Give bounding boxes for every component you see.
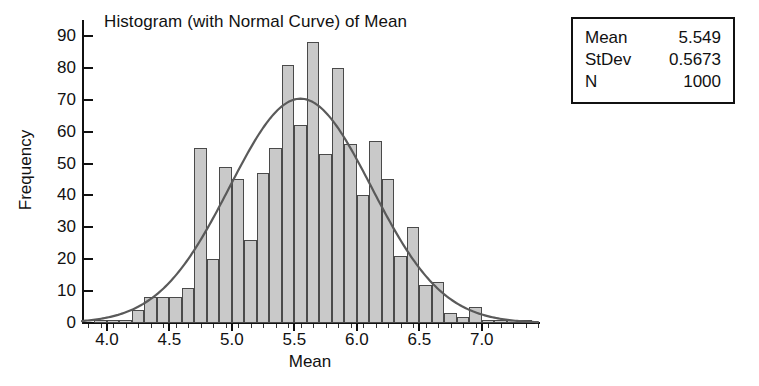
stats-key: N (585, 71, 597, 93)
x-axis-minor-tick (413, 324, 414, 328)
x-axis-minor-tick (176, 324, 177, 328)
normal-curve-path (82, 99, 538, 322)
y-axis-tick-label: 50 (42, 155, 76, 172)
x-axis-minor-tick (363, 324, 364, 328)
x-axis-minor-tick (338, 324, 339, 328)
x-axis-minor-tick (376, 324, 377, 328)
y-axis-tick-label: 10 (42, 282, 76, 299)
x-axis-minor-tick (488, 324, 489, 328)
x-axis-minor-tick (276, 324, 277, 328)
x-axis-minor-tick (213, 324, 214, 328)
normal-curve-overlay (82, 20, 538, 323)
stats-value: 0.5673 (669, 49, 721, 71)
y-axis-tick-label: 60 (42, 123, 76, 140)
x-axis-minor-tick (101, 324, 102, 328)
x-axis-minor-tick (163, 324, 164, 328)
x-axis-minor-tick (401, 324, 402, 328)
x-axis-minor-tick (301, 324, 302, 328)
x-axis-minor-tick (201, 324, 202, 328)
x-axis-minor-tick (438, 324, 439, 328)
x-axis-tick-label: 5.0 (208, 330, 256, 350)
y-axis-tick-label: 90 (42, 27, 76, 44)
x-axis-minor-tick (113, 324, 114, 328)
x-axis-minor-tick (263, 324, 264, 328)
x-axis-tick-label: 6.0 (333, 330, 381, 350)
y-axis-tick-label: 30 (42, 218, 76, 235)
x-axis-tick-label: 6.5 (395, 330, 443, 350)
x-axis-minor-tick (513, 324, 514, 328)
x-axis-minor-tick (126, 324, 127, 328)
x-axis-minor-tick (88, 324, 89, 328)
x-axis-tick-label: 4.0 (83, 330, 131, 350)
x-axis-minor-tick (226, 324, 227, 328)
x-axis-minor-tick (288, 324, 289, 328)
stats-row: StDev 0.5673 (585, 49, 721, 71)
x-axis-tick-label: 5.5 (270, 330, 318, 350)
stats-key: Mean (585, 27, 628, 49)
stats-row: N 1000 (585, 71, 721, 93)
x-axis-minor-tick (151, 324, 152, 328)
y-axis-tick-label: 0 (42, 314, 76, 331)
x-axis-tick-label: 7.0 (458, 330, 506, 350)
x-axis-minor-tick (463, 324, 464, 328)
y-axis-tick-label: 20 (42, 250, 76, 267)
plot-area (82, 20, 538, 323)
y-axis-tick-label: 80 (42, 59, 76, 76)
x-axis-minor-tick (526, 324, 527, 328)
x-axis-title: Mean (82, 352, 538, 372)
x-axis-minor-tick (476, 324, 477, 328)
y-axis-tick-label: 40 (42, 186, 76, 203)
statistics-box: Mean 5.549 StDev 0.5673 N 1000 (571, 17, 735, 104)
stats-value: 1000 (683, 71, 721, 93)
stats-row: Mean 5.549 (585, 27, 721, 49)
x-axis-minor-tick (426, 324, 427, 328)
y-axis-title: Frequency (16, 100, 36, 240)
x-axis-minor-tick (238, 324, 239, 328)
x-axis-minor-tick (138, 324, 139, 328)
x-axis-minor-tick (451, 324, 452, 328)
y-axis-tick-label: 70 (42, 91, 76, 108)
stats-key: StDev (585, 49, 631, 71)
x-axis-tick-label: 4.5 (145, 330, 193, 350)
x-axis-minor-tick (501, 324, 502, 328)
x-axis-minor-tick (351, 324, 352, 328)
x-axis-minor-tick (538, 324, 539, 328)
histogram-figure: Histogram (with Normal Curve) of Mean Fr… (0, 0, 759, 386)
x-axis-minor-tick (188, 324, 189, 328)
stats-value: 5.549 (678, 27, 721, 49)
x-axis-minor-tick (388, 324, 389, 328)
x-axis-minor-tick (326, 324, 327, 328)
x-axis-minor-tick (313, 324, 314, 328)
x-axis-minor-tick (251, 324, 252, 328)
